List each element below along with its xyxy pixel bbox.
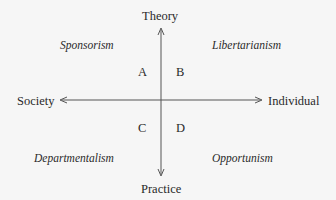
axis-label-right: Individual bbox=[268, 94, 319, 108]
axis-label-left: Society bbox=[17, 94, 55, 108]
quadrant-name-b: Libertarianism bbox=[212, 38, 281, 52]
quadrant-letter-b: B bbox=[176, 65, 184, 79]
quadrant-letter-d: D bbox=[176, 121, 185, 135]
quadrant-letter-a: A bbox=[138, 65, 147, 79]
quadrant-name-c: Departmentalism bbox=[34, 151, 114, 165]
quadrant-name-a: Sponsorism bbox=[60, 38, 114, 52]
quadrant-name-d: Opportunism bbox=[212, 151, 273, 165]
axis-label-top: Theory bbox=[142, 9, 178, 23]
quadrant-letter-c: C bbox=[138, 121, 146, 135]
axis-label-bottom: Practice bbox=[141, 182, 181, 196]
